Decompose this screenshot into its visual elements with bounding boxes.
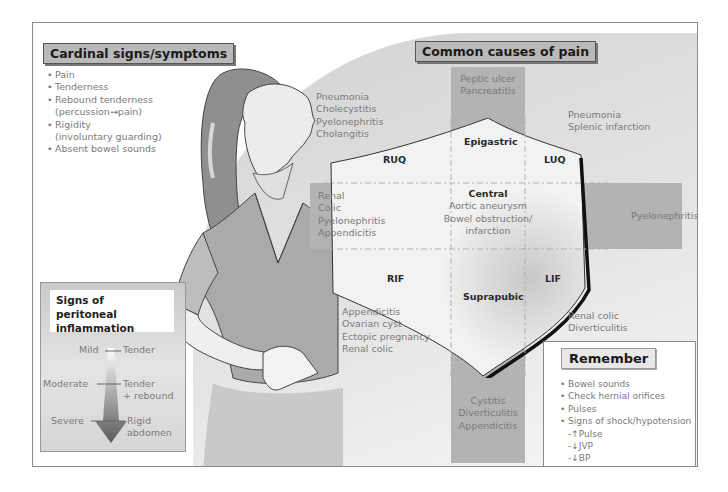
cause-item: Appendicitis	[318, 227, 385, 239]
cause-item: Peptic ulcer	[451, 73, 525, 85]
list-item: Check hernial orifices	[560, 390, 691, 402]
list-item: -↓JVP	[560, 440, 691, 452]
remember-title: Remember	[561, 348, 656, 369]
cause-item: Cholecystitis	[316, 103, 383, 115]
cause-item: Diverticulitis	[568, 322, 628, 334]
cause-item: Aortic aneurysm	[438, 200, 538, 212]
cause-item: Ectopic pregnancy	[342, 331, 430, 343]
cause-item: Pneumonia	[316, 91, 383, 103]
cause-item: Diverticulitis	[451, 407, 525, 419]
epigastric-causes: Peptic ulcer Pancreatitis	[451, 73, 525, 98]
cause-item: Appendicitis	[451, 420, 525, 432]
list-item: Bowel sounds	[560, 378, 691, 390]
list-item: -↑Pulse	[560, 428, 691, 440]
ruq-causes: Pneumonia Cholecystitis Pyelonephritis C…	[316, 91, 383, 141]
list-item: Pulses	[560, 403, 691, 415]
region-label-central: Central	[438, 188, 538, 200]
cause-item: Renal	[318, 190, 385, 202]
remember-list: Bowel sounds Check hernial orifices Puls…	[560, 378, 691, 465]
region-label-ruq: RUQ	[383, 154, 406, 165]
suprapubic-causes: Cystitis Diverticulitis Appendicitis	[451, 395, 525, 432]
diagram-frame: Cardinal signs/symptoms Pain Tenderness …	[32, 22, 698, 467]
cause-item: Pyelonephritis	[316, 116, 383, 128]
cause-item: Appendicitis	[342, 306, 430, 318]
list-item: Signs of shock/hypotension	[560, 415, 691, 427]
cause-item: Pneumonia	[568, 109, 650, 121]
peritoneal-inflammation-box: Signs of peritoneal inflammation Mild Te…	[40, 282, 186, 452]
cause-item: Bowel obstruction/	[438, 213, 538, 225]
region-label-lif: LIF	[545, 273, 561, 284]
cause-item: Renal colic	[568, 310, 628, 322]
right-flank-causes: Renal Colic Pyelonephritis Appendicitis	[318, 190, 385, 240]
remember-box: Remember Bowel sounds Check hernial orif…	[543, 341, 696, 467]
cause-item: Cholangitis	[316, 128, 383, 140]
cause-item: infarction	[438, 225, 538, 237]
cause-item: Pyelonephritis	[318, 215, 385, 227]
cause-item: Cystitis	[451, 395, 525, 407]
region-label-rif: RIF	[387, 273, 404, 284]
region-label-suprapubic: Suprapubic	[463, 291, 524, 302]
cause-item: Ovarian cyst	[342, 318, 430, 330]
common-causes-title: Common causes of pain	[415, 41, 596, 62]
luq-causes: Pneumonia Splenic infarction	[568, 109, 650, 134]
cause-item: Pancreatitis	[451, 85, 525, 97]
region-label-epigastric: Epigastric	[464, 136, 518, 147]
cause-item: Colic	[318, 202, 385, 214]
central-region: Central Aortic aneurysm Bowel obstructio…	[438, 188, 538, 238]
left-flank-causes: Pyelonephritis	[631, 210, 698, 222]
cause-item: Renal colic	[342, 343, 430, 355]
region-label-luq: LUQ	[544, 154, 566, 165]
cause-item: Splenic infarction	[568, 121, 650, 133]
severity-tick-lines	[41, 283, 185, 451]
cause-item: Pyelonephritis	[631, 210, 698, 222]
rif-causes: Appendicitis Ovarian cyst Ectopic pregna…	[342, 306, 430, 356]
lif-causes: Renal colic Diverticulitis	[568, 310, 628, 335]
list-item: -↓BP	[560, 452, 691, 464]
